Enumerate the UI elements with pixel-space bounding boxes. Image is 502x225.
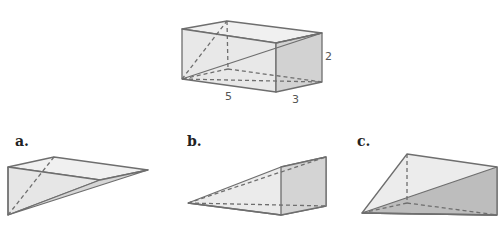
option-b-label: b. — [187, 133, 202, 149]
height-dimension-label: 2 — [325, 50, 332, 63]
option-b-solid — [188, 157, 326, 215]
width-dimension-label: 3 — [292, 93, 299, 106]
rectangular-prism — [182, 21, 322, 92]
option-c-solid — [362, 154, 497, 215]
figure-canvas — [0, 0, 502, 225]
option-a-label: a. — [15, 133, 29, 149]
length-dimension-label: 5 — [225, 90, 232, 103]
option-c-label: c. — [357, 133, 370, 149]
option-a-solid — [8, 157, 148, 215]
